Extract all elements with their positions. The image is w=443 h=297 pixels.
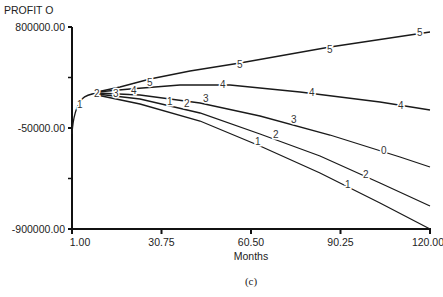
marker-5: 5 (327, 44, 333, 55)
marker-1: 1 (167, 96, 173, 107)
figure-caption: (c) (245, 275, 258, 288)
chart-title: PROFIT O (4, 4, 53, 16)
x-tick-label-4: 120.00 (412, 236, 443, 248)
marker-4: 4 (309, 87, 315, 98)
y-axis: 800000.00 -50000.00 -900000.00 (12, 21, 72, 235)
y-tick-label-bottom: -900000.00 (12, 223, 65, 235)
marker-4: 4 (220, 79, 226, 90)
marker-5: 5 (237, 59, 243, 70)
x-tick-label-1: 30.75 (148, 236, 174, 248)
marker-1: 1 (345, 179, 351, 190)
x-axis: 1.00 30.75 60.50 90.25 120.00 Months (70, 229, 443, 262)
marker-2: 2 (94, 88, 100, 99)
marker-2: 2 (184, 98, 190, 109)
marker-4: 4 (398, 100, 404, 111)
curve-common-start (72, 93, 97, 134)
x-tick-label-0: 1.00 (70, 236, 91, 248)
x-tick-label-2: 60.50 (238, 236, 264, 248)
x-axis-label: Months (234, 250, 268, 262)
marker-2: 2 (363, 169, 369, 180)
profit-line-chart: PROFIT O 800000.00 -50000.00 -900000.00 … (0, 0, 443, 297)
marker-4: 4 (131, 85, 137, 96)
x-tick-label-3: 90.25 (327, 236, 353, 248)
marker-3: 3 (203, 93, 209, 104)
y-tick-label-top: 800000.00 (15, 21, 65, 33)
marker-2: 2 (273, 129, 279, 140)
marker-0: 0 (381, 145, 387, 156)
marker-5: 5 (147, 77, 153, 88)
marker-1: 1 (255, 136, 261, 147)
marker-3: 3 (291, 114, 297, 125)
marker-1: 1 (77, 99, 83, 110)
marker-5: 5 (417, 27, 423, 38)
curve-1 (97, 95, 430, 229)
curve-markers: 1 2 3 4 5 1 2 3 4 5 1 2 3 4 5 1 2 0 4 5 (77, 27, 423, 190)
y-tick-label-mid: -50000.00 (18, 122, 65, 134)
marker-3: 3 (113, 88, 119, 99)
